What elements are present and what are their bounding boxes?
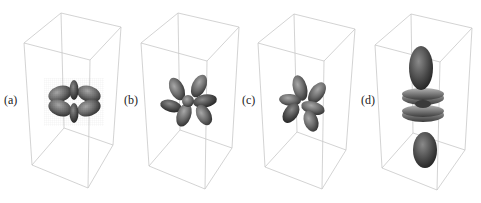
panel-a-surface [44, 78, 104, 126]
panel-label-a: (a) [4, 93, 17, 108]
figure: (a) (b) (c) (d) [0, 0, 481, 203]
figure-canvas [0, 0, 481, 203]
panel-label-b: (b) [124, 93, 138, 108]
panel-c-surface [279, 74, 330, 134]
panel-label-d: (d) [361, 93, 375, 108]
panel-label-c: (c) [242, 93, 255, 108]
panel-b-surface [159, 72, 218, 129]
